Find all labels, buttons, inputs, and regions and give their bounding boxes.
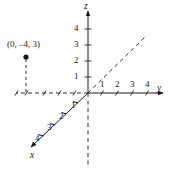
coordinate-system-figure: z y x 1 2 3 4 1 2 3 4 1 2 3 4 (0, –4, 3) — [0, 0, 169, 171]
y-tick-label-4: 4 — [145, 80, 150, 89]
y-tick-label-1: 1 — [100, 80, 105, 89]
x-tick-label-3: 3 — [47, 123, 52, 132]
x-tick-label-4: 4 — [35, 134, 40, 143]
x-tick-label-2: 2 — [59, 112, 64, 121]
data-point-marker — [23, 54, 28, 59]
y-tick-label-2: 2 — [115, 80, 120, 89]
axes-drawing — [0, 0, 169, 171]
x-axis-label: x — [30, 151, 34, 161]
y-tick-label-3: 3 — [130, 80, 135, 89]
z-tick-label-1: 1 — [74, 72, 79, 81]
z-axis-label: z — [84, 2, 88, 12]
positive-y-axis — [88, 91, 163, 96]
y-axis-label: y — [157, 84, 161, 94]
x-tick-label-1: 1 — [71, 101, 76, 110]
z-tick-label-2: 2 — [74, 56, 79, 65]
data-point-label: (0, –4, 3) — [7, 40, 40, 49]
positive-z-axis — [85, 11, 92, 93]
z-tick-label-3: 3 — [74, 40, 79, 49]
z-tick-label-4: 4 — [74, 24, 79, 33]
